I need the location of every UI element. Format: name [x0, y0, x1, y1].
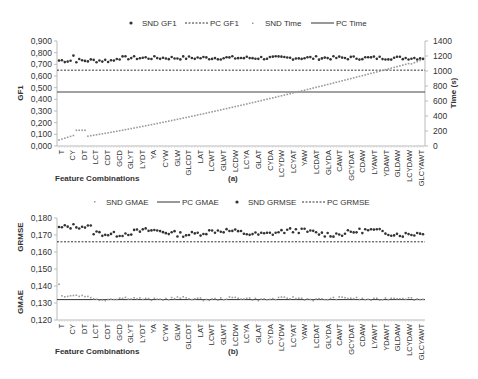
snd-grmse-point [243, 232, 246, 235]
snd-time-point [87, 135, 89, 137]
snd-gf1-point [219, 58, 222, 61]
snd-time-point [263, 99, 265, 101]
y2-tick-label: 1000 [433, 66, 452, 76]
snd-grmse-point [263, 232, 266, 235]
snd-time-point [327, 84, 329, 86]
snd-gmae-point [336, 299, 338, 301]
snd-time-point [321, 85, 323, 87]
snd-time-point [232, 106, 234, 108]
snd-gmae-point [96, 298, 98, 300]
snd-gf1-point [338, 55, 341, 58]
snd-gf1-point [309, 56, 312, 59]
snd-time-point [373, 72, 375, 74]
snd-gmae-point [295, 298, 297, 300]
snd-gf1-point [170, 56, 173, 59]
snd-gf1-point [260, 56, 263, 59]
snd-gf1-point [323, 56, 326, 59]
snd-grmse-point [188, 234, 191, 237]
snd-grmse-point [104, 234, 107, 237]
snd-gf1-point [410, 57, 413, 60]
snd-gmae-point [301, 297, 303, 299]
snd-grmse-point [393, 234, 396, 237]
x-tick-label: GLYDA [324, 324, 333, 349]
snd-gmae-point [246, 298, 248, 300]
snd-gmae-point [341, 296, 343, 298]
snd-time-point [96, 134, 98, 136]
snd-gmae-point [197, 297, 199, 299]
snd-gmae-point [99, 300, 101, 302]
x-tick-label: GLYT [126, 324, 135, 343]
snd-grmse-point [289, 227, 292, 230]
snd-grmse-point [211, 229, 214, 232]
legend-label-snd-gf1: SND GF1 [142, 19, 177, 28]
snd-grmse-point [78, 227, 81, 230]
snd-gmae-point [211, 298, 213, 300]
snd-grmse-point [341, 234, 344, 237]
snd-time-point [119, 130, 121, 132]
x-tick-label: CY [68, 150, 77, 160]
y-axis-title-grmse: GRMSE [16, 222, 25, 252]
snd-time-point [350, 78, 352, 80]
snd-gf1-point [101, 60, 104, 63]
chart-b: 0,1200,1300,1400,1500,1600,1700,180TCYDT… [31, 213, 426, 360]
snd-gmae-point [107, 299, 109, 301]
snd-gmae-point [370, 299, 372, 301]
snd-time-point [246, 103, 248, 105]
snd-time-point [211, 111, 213, 113]
x-tick-label: GLYDA [324, 150, 333, 175]
snd-time-point [84, 129, 86, 131]
snd-time-point [393, 67, 395, 69]
snd-time-point [133, 127, 135, 129]
snd-grmse-point [228, 230, 231, 233]
y-tick-label: 0,300 [31, 106, 53, 116]
snd-time-point [281, 95, 283, 97]
x-tick-label: LAT [196, 150, 205, 164]
snd-grmse-point [338, 233, 341, 236]
snd-gmae-point [390, 298, 392, 300]
snd-grmse-point [133, 229, 136, 232]
snd-gf1-point [355, 57, 358, 60]
x-tick-label: GCYDAT [347, 324, 356, 355]
snd-time-point [284, 94, 286, 96]
x-tick-label: LYDT [138, 150, 147, 169]
snd-grmse-point [81, 226, 84, 229]
legend-label-pc-time: PC Time [336, 19, 367, 28]
x-tick-label: YA [149, 324, 158, 333]
x-tick-label: LCDAT [312, 150, 321, 174]
snd-gmae-point [194, 298, 196, 300]
y-tick-label: 0,170 [31, 230, 53, 240]
snd-time-point [168, 120, 170, 122]
snd-time-point [411, 63, 413, 65]
snd-time-point [310, 88, 312, 90]
snd-grmse-point [237, 230, 240, 233]
x-tick-label: YDAWT [382, 150, 391, 177]
snd-grmse-point [87, 224, 90, 227]
snd-time-point [419, 60, 421, 62]
snd-gf1-point [98, 59, 101, 62]
snd-gmae-point [133, 297, 135, 299]
snd-time-point [182, 117, 184, 119]
snd-time-point [333, 82, 335, 84]
snd-gmae-point [113, 299, 115, 301]
x-axis-title-a: Feature Combinations [55, 174, 140, 183]
snd-grmse-point [364, 228, 367, 231]
snd-time-point [399, 65, 401, 67]
snd-gmae-point [382, 299, 384, 301]
snd-grmse-point [413, 234, 416, 237]
snd-grmse-point [347, 229, 350, 232]
snd-gmae-point [73, 295, 75, 297]
snd-gmae-point [321, 298, 323, 300]
snd-time-point [260, 100, 262, 102]
y-tick-label: 0,150 [31, 264, 53, 274]
snd-time-point [162, 122, 164, 124]
snd-gmae-point [269, 299, 271, 301]
snd-gf1-point [139, 57, 142, 60]
snd-grmse-point [72, 223, 75, 226]
snd-time-point [206, 112, 208, 114]
x-tick-label: LCDW [231, 149, 240, 172]
snd-gf1-point [263, 58, 266, 61]
snd-gmae-point [84, 296, 86, 298]
snd-grmse-point [271, 233, 274, 236]
snd-time-point [312, 87, 314, 89]
x-tick-label: CDT [103, 150, 112, 166]
